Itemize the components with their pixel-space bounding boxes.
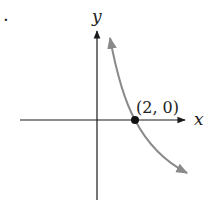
graph: . y x (2, 0) <box>0 0 208 200</box>
point-label: (2, 0) <box>136 98 179 117</box>
stray-mark: . <box>3 4 9 25</box>
point-2-0 <box>131 116 139 124</box>
x-axis-label: x <box>194 109 204 129</box>
y-axis-label: y <box>91 6 102 26</box>
